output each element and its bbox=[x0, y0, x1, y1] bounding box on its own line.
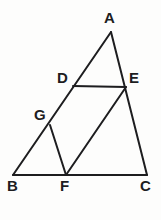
vertex-label-g: G bbox=[34, 107, 46, 122]
segment-de bbox=[73, 86, 126, 87]
vertex-label-c: C bbox=[140, 178, 151, 193]
segment-group bbox=[13, 32, 147, 175]
geometry-figure: A B C D E F G bbox=[0, 0, 161, 220]
segment-ab bbox=[13, 32, 111, 175]
vertex-label-a: A bbox=[104, 10, 115, 25]
segment-fe bbox=[66, 87, 126, 175]
vertex-label-d: D bbox=[57, 70, 68, 85]
geometry-canvas bbox=[0, 0, 161, 220]
segment-gf bbox=[50, 125, 66, 175]
vertex-label-e: E bbox=[129, 70, 139, 85]
vertex-label-f: F bbox=[60, 178, 69, 193]
vertex-label-b: B bbox=[7, 178, 18, 193]
segment-ac bbox=[111, 32, 147, 175]
